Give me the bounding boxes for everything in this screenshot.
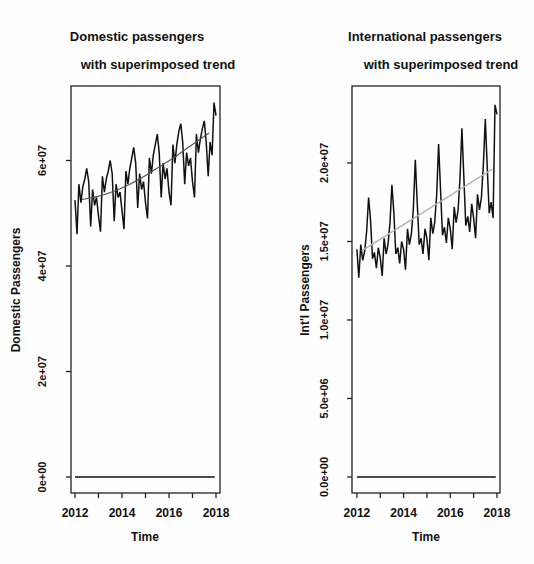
chart-title-line1: International passengers (348, 29, 502, 44)
series-domestic-passengers-monthly-line (75, 103, 216, 235)
x-tick-label: 2016 (156, 506, 183, 520)
x-tick-label: 2018 (484, 506, 511, 520)
panel-international: International passengers with superimpos… (267, 0, 534, 564)
x-tick-label: 2016 (437, 506, 464, 520)
y-tick-label: 0.0e+00 (318, 457, 330, 497)
x-axis-label: Time (131, 530, 159, 544)
y-axis-label: Domestic Passengers (9, 227, 23, 352)
y-tick-label: 2e+07 (36, 356, 48, 387)
x-tick-label: 2014 (390, 506, 417, 520)
y-tick-label: 1.5e+07 (318, 221, 330, 261)
chart-title-line1: Domestic passengers (70, 29, 204, 44)
panel-domestic: Domestic passengers with superimposed tr… (0, 0, 267, 564)
y-tick-label: 0e+00 (36, 462, 48, 493)
y-tick-label: 1.0e+07 (318, 300, 330, 340)
y-tick-label: 5.0e+06 (318, 378, 330, 418)
y-tick-label: 2.0e+07 (318, 143, 330, 183)
series-international-passengers-monthly-line (357, 105, 497, 278)
plot-frame (352, 86, 500, 493)
chart-title-line2: with superimposed trend (363, 57, 519, 72)
y-axis-label: Int'l Passengers (298, 244, 312, 336)
x-tick-label: 2018 (203, 506, 230, 520)
chart-title-line2: with superimposed trend (80, 57, 236, 72)
x-tick-label: 2012 (344, 506, 371, 520)
y-tick-label: 6e+07 (36, 145, 48, 176)
x-tick-label: 2014 (109, 506, 136, 520)
y-tick-label: 4e+07 (36, 251, 48, 282)
x-tick-label: 2012 (62, 506, 89, 520)
series-superimposed-trend-line (82, 133, 209, 199)
figure-two-panel-time-series: Domestic passengers with superimposed tr… (0, 0, 534, 564)
plot-area: 20122014201620180e+002e+074e+076e+07 (36, 86, 230, 520)
x-axis-label: Time (412, 530, 440, 544)
plot-area: 20122014201620180.0e+005.0e+061.0e+071.5… (318, 86, 511, 520)
